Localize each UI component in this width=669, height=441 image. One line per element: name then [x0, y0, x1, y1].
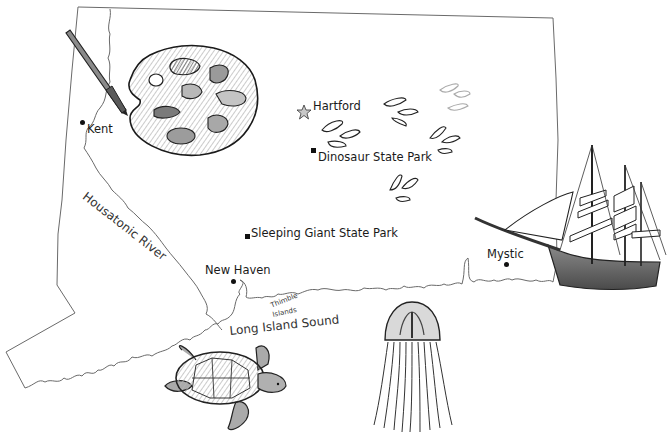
connecticut-map	[0, 0, 669, 441]
tall-ship-icon	[475, 145, 666, 290]
paintbrush-icon	[66, 30, 128, 116]
new-haven-marker	[231, 279, 236, 284]
city-label-new-haven: New Haven	[205, 265, 271, 277]
dinosaur-park-marker	[311, 148, 316, 153]
mystic-marker	[504, 262, 509, 267]
paint-palette-icon	[129, 45, 258, 155]
sea-turtle-icon	[165, 346, 286, 430]
city-label-kent: Kent	[87, 124, 113, 136]
city-label-hartford: Hartford	[313, 101, 361, 113]
hartford-star-icon	[296, 104, 312, 120]
park-label-dinosaur: Dinosaur State Park	[318, 152, 432, 164]
sleeping-giant-marker	[245, 234, 250, 239]
kent-marker	[80, 120, 85, 125]
jellyfish-icon	[374, 302, 452, 432]
park-label-sleeping-giant: Sleeping Giant State Park	[251, 228, 398, 240]
city-label-mystic: Mystic	[487, 249, 524, 261]
